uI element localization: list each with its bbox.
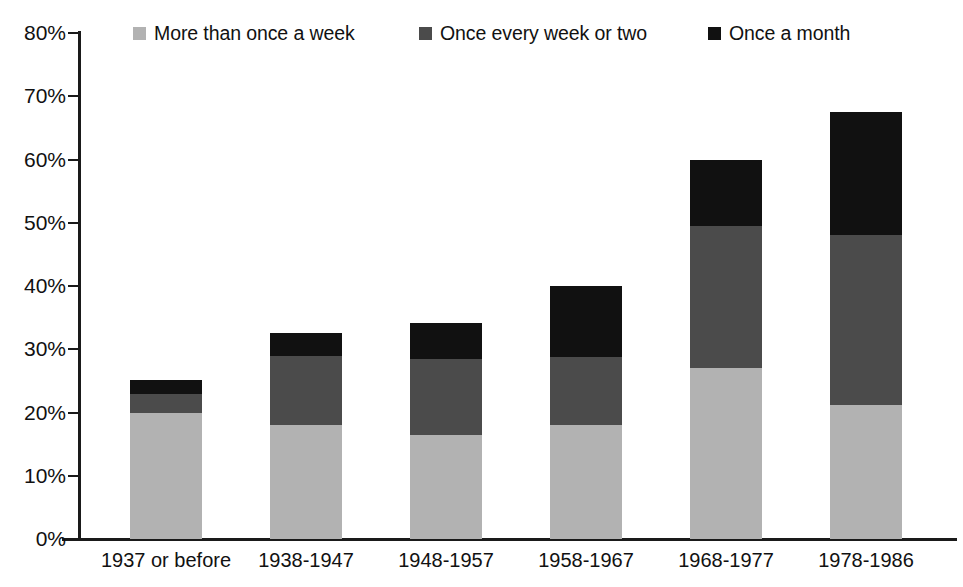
x-tick-label: 1937 or before [86,549,246,571]
bar-segment[interactable] [830,112,902,235]
y-tick-mark [68,412,79,414]
x-tick-label: 1948-1957 [366,549,526,571]
y-tick-mark [68,222,79,224]
y-tick-mark [68,32,79,34]
bar-segment[interactable] [270,333,342,356]
bar-group[interactable] [690,160,762,539]
y-tick-label: 80% [8,22,66,43]
y-tick-label: 0% [8,528,66,549]
y-tick-label: 30% [8,338,66,359]
y-tick-mark [68,159,79,161]
y-tick-label: 60% [8,149,66,170]
bar-segment[interactable] [830,235,902,405]
bar-group[interactable] [550,286,622,539]
bar-segment[interactable] [550,425,622,539]
bar-segment[interactable] [830,405,902,539]
bar-segment[interactable] [130,394,202,413]
y-tick-label: 10% [8,465,66,486]
bar-segment[interactable] [690,368,762,539]
y-tick-mark [68,95,79,97]
y-tick-mark [68,538,79,540]
y-axis-labels: 80%70%60%50%40%30%20%10%0% [0,0,66,587]
bar-segment[interactable] [550,286,622,357]
x-tick-label: 1978-1986 [786,549,946,571]
stacked-bar-chart: More than once a week Once every week or… [0,0,963,587]
bar-segment[interactable] [270,425,342,539]
y-tick-label: 20% [8,402,66,423]
x-tick-label: 1938-1947 [226,549,386,571]
bar-group[interactable] [830,112,902,539]
bar-segment[interactable] [270,356,342,426]
bar-segment[interactable] [130,380,202,394]
y-tick-mark [68,475,79,477]
bar-segment[interactable] [410,435,482,539]
y-tick-mark [68,285,79,287]
bar-segment[interactable] [550,357,622,425]
x-tick-label: 1958-1967 [506,549,666,571]
bar-segment[interactable] [130,413,202,540]
x-axis-labels: 1937 or before1938-19471948-19571958-196… [80,549,957,583]
bar-segment[interactable] [690,160,762,226]
bar-group[interactable] [130,380,202,539]
bar-segment[interactable] [410,323,482,359]
bar-segment[interactable] [410,359,482,435]
bars-layer [80,33,957,539]
y-tick-label: 50% [8,212,66,233]
y-tick-label: 40% [8,275,66,296]
bar-group[interactable] [270,333,342,539]
bar-group[interactable] [410,323,482,539]
y-tick-label: 70% [8,85,66,106]
x-tick-label: 1968-1977 [646,549,806,571]
y-tick-mark [68,348,79,350]
bar-segment[interactable] [690,226,762,368]
